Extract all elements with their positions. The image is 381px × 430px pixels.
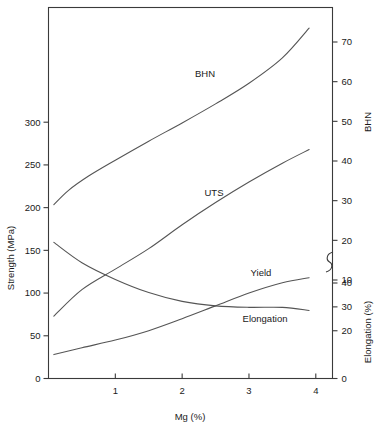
right-bhn-tick-label: 40 (342, 155, 353, 166)
right-bhn-tick-label: 60 (342, 76, 353, 87)
bottom-tick-label: 1 (113, 385, 118, 396)
right-elongation-tick-label: 20 (342, 325, 353, 336)
bottom-tick-label: 2 (179, 385, 184, 396)
right-bhn-tick-label: 20 (342, 235, 353, 246)
right-axis-elongation-ticks: 0203040 (333, 277, 353, 384)
right-elongation-tick-label: 0 (342, 373, 347, 384)
left-tick-label: 300 (25, 117, 41, 128)
bottom-axis-title: Mg (%) (175, 411, 206, 422)
right-bhn-tick-label: 50 (342, 116, 353, 127)
right-axis-elongation-title: Elongation (%) (362, 301, 373, 363)
left-tick-label: 100 (25, 287, 41, 298)
bottom-axis-ticks: 1234 (113, 374, 319, 396)
right-bhn-tick-label: 30 (342, 195, 353, 206)
left-tick-label: 250 (25, 159, 41, 170)
curve-label-yield: Yield (251, 267, 272, 278)
data-curves (54, 28, 309, 354)
curve-label-elongation: Elongation (243, 313, 288, 324)
left-tick-label: 150 (25, 245, 41, 256)
curve-label-uts: UTS (205, 187, 224, 198)
chart-canvas: 050100150200250300 1234 10203040506070 0… (0, 0, 381, 430)
left-tick-label: 0 (35, 373, 40, 384)
curve-uts (54, 150, 309, 317)
chart-figure: 050100150200250300 1234 10203040506070 0… (0, 0, 381, 430)
right-axis-bhn-title: BHN (362, 112, 373, 132)
left-axis-ticks: 050100150200250300 (25, 117, 49, 384)
bottom-tick-label: 4 (313, 385, 318, 396)
left-tick-label: 200 (25, 202, 41, 213)
right-elongation-tick-label: 40 (342, 277, 353, 288)
left-tick-label: 50 (30, 330, 41, 341)
bottom-tick-label: 3 (246, 385, 251, 396)
right-axis-bhn-ticks: 10203040506070 (333, 36, 353, 285)
plot-frame (49, 8, 333, 379)
right-bhn-tick-label: 70 (342, 36, 353, 47)
left-axis-title: Strength (MPa) (5, 226, 16, 290)
right-elongation-tick-label: 30 (342, 301, 353, 312)
curve-label-bhn: BHN (195, 68, 215, 79)
curve-bhn (54, 28, 309, 205)
